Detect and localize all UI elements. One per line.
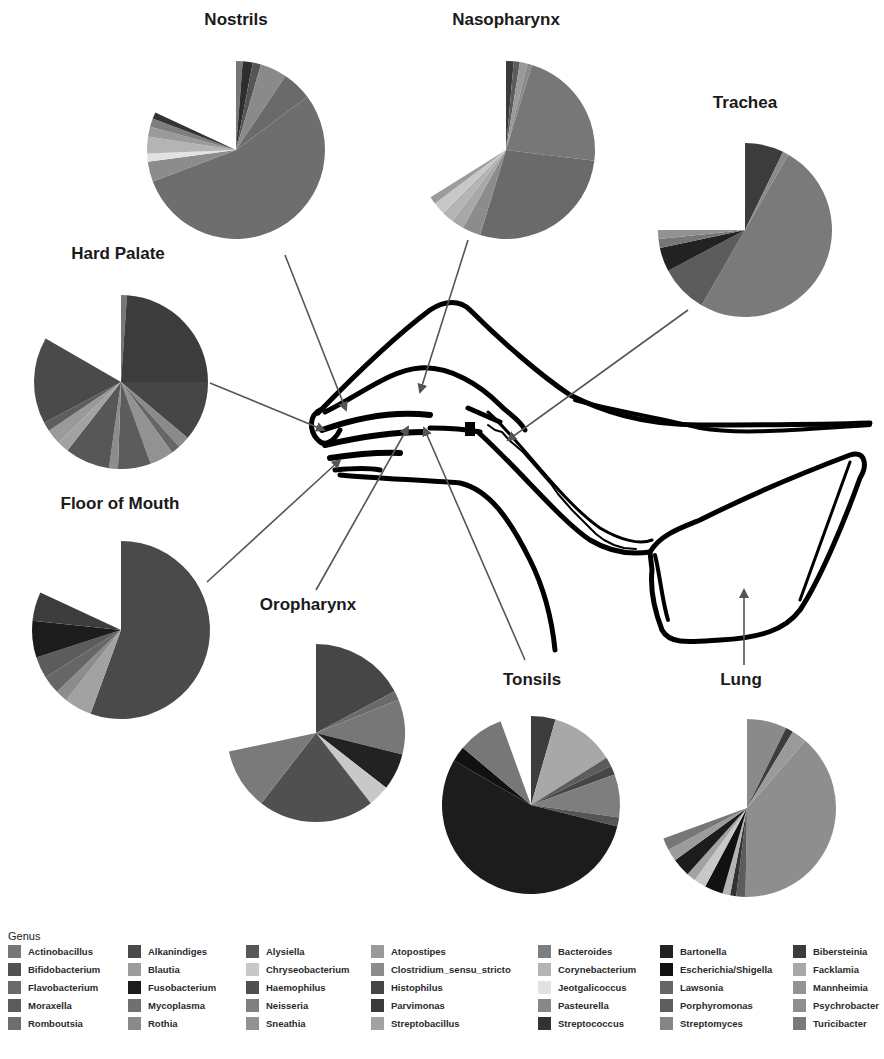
legend-item: Mycoplasma [128,999,246,1012]
pie-floor-of-mouth [32,541,210,719]
pie-hard-palate [34,295,208,469]
legend-label: Clostridium_sensu_stricto [391,964,511,975]
legend-item: Neisseria [246,999,371,1012]
legend-label: Parvimonas [391,1000,445,1011]
legend-swatch-icon [8,945,21,958]
legend-item: Jeotgalicoccus [538,981,660,994]
legend-label: Jeotgalicoccus [558,982,627,993]
pie-title-tonsils: Tonsils [503,670,561,690]
legend-swatch-icon [538,963,551,976]
pie-oropharynx [229,644,405,822]
legend-swatch-icon [538,945,551,958]
legend-swatch-icon [660,945,673,958]
legend-label: Chryseobacterium [266,964,349,975]
legend-item: Haemophilus [246,981,371,994]
legend-swatch-icon [128,963,141,976]
pie-title-nasopharynx: Nasopharynx [452,10,560,30]
legend-item: Streptococcus [538,1017,660,1030]
legend-item: Streptobacillus [371,1017,538,1030]
legend-item: Porphyromonas [660,999,793,1012]
legend-label: Escherichia/Shigella [680,964,772,975]
legend-label: Streptobacillus [391,1018,460,1029]
legend-label: Actinobacillus [28,946,93,957]
legend-label: Fusobacterium [148,982,216,993]
legend-swatch-icon [128,981,141,994]
legend-item: Bartonella [660,945,793,958]
legend-swatch-icon [660,981,673,994]
legend-swatch-icon [793,945,806,958]
legend-item: Escherichia/Shigella [660,963,793,976]
legend-swatch-icon [538,1017,551,1030]
legend-label: Sneathia [266,1018,306,1029]
legend-swatch-icon [660,999,673,1012]
pie-title-lung: Lung [720,670,762,690]
legend-item: Parvimonas [371,999,538,1012]
pie-tonsils [442,716,620,894]
legend-item: Corynebacterium [538,963,660,976]
legend-item: Chryseobacterium [246,963,371,976]
pie-charts-layer [0,0,875,920]
legend-label: Haemophilus [266,982,326,993]
legend-swatch-icon [246,945,259,958]
arrow-nostrils [285,255,346,410]
legend-label: Neisseria [266,1000,308,1011]
pie-trachea [658,143,832,317]
legend-item: Fusobacterium [128,981,246,994]
legend-item: Romboutsia [8,1017,128,1030]
legend-label: Streptomyces [680,1018,743,1029]
legend-label: Pasteurella [558,1000,609,1011]
legend-swatch-icon [793,1017,806,1030]
legend-swatch-icon [371,1017,384,1030]
legend-swatch-icon [371,945,384,958]
legend-item: Histophilus [371,981,538,994]
legend-item: Blautia [128,963,246,976]
legend-label: Psychrobacter [813,1000,879,1011]
legend-swatch-icon [8,999,21,1012]
arrow-trachea [508,310,688,440]
legend-item: Turicibacter [793,1017,884,1030]
genus-legend: Genus ActinobacillusAlkanindigesAlysiell… [8,930,868,1030]
arrow-tonsils [424,428,525,660]
legend-label: Streptococcus [558,1018,624,1029]
legend-swatch-icon [246,999,259,1012]
legend-title: Genus [8,930,868,942]
legend-item: Streptomyces [660,1017,793,1030]
legend-label: Romboutsia [28,1018,83,1029]
legend-swatch-icon [793,999,806,1012]
legend-item: Actinobacillus [8,945,128,958]
legend-swatch-icon [660,1017,673,1030]
arrow-floor-of-mouth [207,460,340,582]
pie-title-hard-palate: Hard Palate [71,244,165,264]
legend-item: Mannheimia [793,981,884,994]
legend-label: Blautia [148,964,180,975]
legend-item: Rothia [128,1017,246,1030]
legend-item: Lawsonia [660,981,793,994]
legend-swatch-icon [8,1017,21,1030]
legend-label: Lawsonia [680,982,723,993]
legend-label: Turicibacter [813,1018,867,1029]
legend-item: Alysiella [246,945,371,958]
legend-item: Flavobacterium [8,981,128,994]
legend-label: Corynebacterium [558,964,636,975]
pie-lung [663,719,836,897]
legend-swatch-icon [793,981,806,994]
legend-item: Psychrobacter [793,999,884,1012]
legend-item: Facklamia [793,963,884,976]
legend-item: Pasteurella [538,999,660,1012]
legend-swatch-icon [128,1017,141,1030]
legend-label: Flavobacterium [28,982,98,993]
pie-nostrils [147,61,325,239]
legend-label: Mycoplasma [148,1000,205,1011]
arrow-hard-palate [210,383,324,430]
legend-label: Facklamia [813,964,859,975]
legend-label: Bartonella [680,946,726,957]
legend-item: Alkanindiges [128,945,246,958]
pie-title-oropharynx: Oropharynx [260,595,356,615]
legend-item: Clostridium_sensu_stricto [371,963,538,976]
legend-swatch-icon [371,999,384,1012]
legend-label: Mannheimia [813,982,868,993]
legend-item: Moraxella [8,999,128,1012]
pie-title-floor-of-mouth: Floor of Mouth [61,494,180,514]
legend-swatch-icon [128,999,141,1012]
legend-item: Atopostipes [371,945,538,958]
